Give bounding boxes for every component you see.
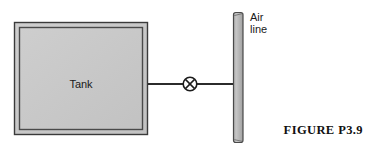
tank-air-line-diagram: Tank Air line FIGURE P3.9 bbox=[0, 0, 369, 147]
figure-caption: FIGURE P3.9 bbox=[284, 123, 363, 137]
air-line-label-line2: line bbox=[250, 23, 267, 35]
crossed-circle-valve-icon bbox=[183, 77, 197, 91]
air-line-label-line1: Air bbox=[250, 11, 264, 23]
air-line-bar bbox=[234, 13, 244, 143]
figure-container: Tank Air line FIGURE P3.9 bbox=[0, 0, 369, 147]
tank-label: Tank bbox=[69, 78, 93, 90]
